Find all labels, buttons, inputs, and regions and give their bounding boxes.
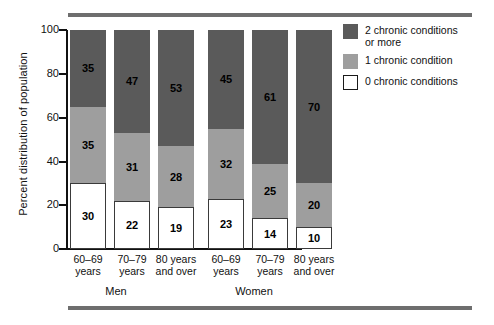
legend-label-line1: 0 chronic conditions [365,76,458,88]
legend-item-zero[interactable]: 0 chronic conditions [343,75,493,90]
bar-men-60-69: 353530 [70,30,106,249]
bar-women-60-69: 453223 [208,30,244,249]
segment-one: 25 [252,164,288,219]
segment-one: 31 [114,133,150,201]
legend-label-line1: 1 chronic condition [365,55,453,67]
group-label-women: Women [214,285,294,297]
x-label-line1: 80 years [286,254,342,266]
x-label-line1: 80 years [148,254,204,266]
segment-zero: 22 [114,201,150,249]
segment-two-or-more: 47 [114,30,150,133]
legend-swatch-medium-icon [343,54,358,69]
segment-two-or-more: 61 [252,30,288,164]
x-label-line2: and over [286,266,342,278]
x-label-men-80-over: 80 years and over [148,254,204,277]
segment-one: 32 [208,129,244,199]
group-label-men: Men [76,285,156,297]
legend-swatch-white-icon [343,75,358,90]
segment-zero: 23 [208,199,244,249]
segment-one: 35 [70,107,106,184]
legend-item-one[interactable]: 1 chronic condition [343,54,493,69]
bottom-divider-rule [68,306,472,310]
legend-item-two-or-more[interactable]: 2 chronic conditions or more [343,24,493,48]
bar-men-70-79: 473122 [114,30,150,249]
bar-women-70-79: 612514 [252,30,288,249]
segment-zero: 14 [252,218,288,249]
bar-men-80-over: 532819 [158,30,194,249]
segment-one: 20 [296,183,332,227]
segment-two-or-more: 35 [70,30,106,107]
x-label-women-80-over: 80 years and over [286,254,342,277]
segment-two-or-more: 45 [208,30,244,129]
segment-zero: 19 [158,207,194,249]
x-label-line2: and over [148,266,204,278]
legend-label-line1: 2 chronic conditions [365,25,458,37]
segment-one: 28 [158,146,194,207]
segment-zero: 10 [296,227,332,249]
legend: 2 chronic conditions or more 1 chronic c… [343,24,493,96]
legend-swatch-dark-icon [343,24,358,39]
segment-two-or-more: 70 [296,30,332,183]
legend-label-line2: or more [365,37,458,49]
segment-two-or-more: 53 [158,30,194,146]
segment-zero: 30 [70,183,106,249]
top-divider-rule [68,13,472,17]
bar-women-80-over: 702010 [296,30,332,249]
